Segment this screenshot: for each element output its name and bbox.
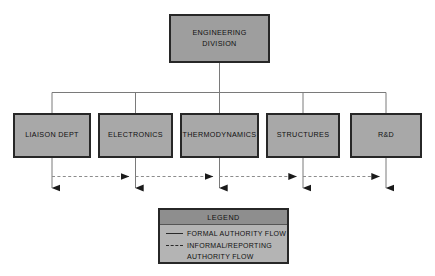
legend-item-formal: FORMAL AUTHORITY FLOW xyxy=(160,228,287,239)
node-liaison-dept[interactable]: LIAISON DEPT xyxy=(13,113,91,158)
node-thermodynamics[interactable]: THERMODYNAMICS xyxy=(180,113,259,158)
legend-body: FORMAL AUTHORITY FLOW INFORMAL/REPORTING… xyxy=(160,225,287,264)
node-engineering-division[interactable]: ENGINEERING DIVISION xyxy=(169,14,270,63)
legend-item-formal-label: FORMAL AUTHORITY FLOW xyxy=(187,229,286,238)
node-rd[interactable]: R&D xyxy=(350,113,422,158)
solid-line-icon xyxy=(166,230,183,237)
node-structures[interactable]: STRUCTURES xyxy=(266,113,340,158)
legend: LEGEND FORMAL AUTHORITY FLOW INFORMAL/RE… xyxy=(158,208,289,264)
dashed-line-icon xyxy=(166,242,183,249)
legend-item-informal: INFORMAL/REPORTING xyxy=(160,240,287,251)
node-electronics[interactable]: ELECTRONICS xyxy=(98,113,173,158)
legend-item-informal-line2: AUTHORITY FLOW xyxy=(160,251,287,262)
org-chart-canvas: ENGINEERING DIVISION LIAISON DEPT ELECTR… xyxy=(0,0,435,276)
legend-item-informal-label: INFORMAL/REPORTING xyxy=(187,241,272,250)
legend-title: LEGEND xyxy=(160,210,287,225)
legend-item-informal-label2: AUTHORITY FLOW xyxy=(187,252,254,261)
